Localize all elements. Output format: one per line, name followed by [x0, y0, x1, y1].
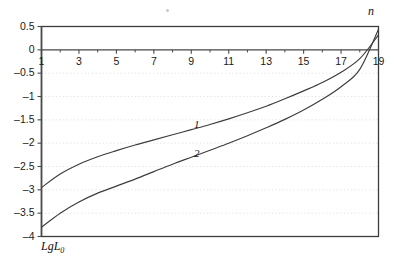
y-tick-label: –0.5 — [14, 67, 34, 78]
curve-label-1: 1 — [194, 119, 200, 130]
y-axis-label-main: LgL — [41, 239, 60, 253]
x-tick-label: 15 — [284, 56, 324, 67]
y-tick-label: –4 — [23, 231, 35, 242]
x-axis-label: n — [368, 5, 374, 17]
x-tick-label: 1 — [22, 56, 62, 67]
x-tick-label: 3 — [59, 56, 99, 67]
curve-label-2: 2 — [194, 148, 200, 159]
x-tick-label: 13 — [246, 56, 286, 67]
y-tick-label: –2 — [23, 137, 35, 148]
y-tick-label: –3 — [23, 184, 35, 195]
chart-figure: 0.50–0.5–1–1.5–2–2.5–3–3.5–4 13579111315… — [0, 0, 395, 263]
y-axis-label: LgL0 — [41, 240, 64, 255]
x-tick-label: 11 — [209, 56, 249, 67]
y-tick-label: –1 — [23, 91, 35, 102]
y-tick-label: 0 — [29, 44, 35, 55]
y-tick-label: 0.5 — [20, 21, 35, 32]
x-tick-label: 7 — [134, 56, 174, 67]
y-tick-label: –2.5 — [14, 161, 34, 172]
x-tick-label: 19 — [359, 56, 395, 67]
y-tick-label: –3.5 — [14, 207, 34, 218]
y-axis-label-subscript: 0 — [60, 246, 64, 255]
y-tick-label: –1.5 — [14, 114, 34, 125]
x-tick-label: 17 — [321, 56, 361, 67]
x-tick-label: 9 — [171, 56, 211, 67]
x-tick-label: 5 — [96, 56, 136, 67]
gridlines — [42, 50, 379, 213]
plot-canvas — [0, 0, 395, 263]
